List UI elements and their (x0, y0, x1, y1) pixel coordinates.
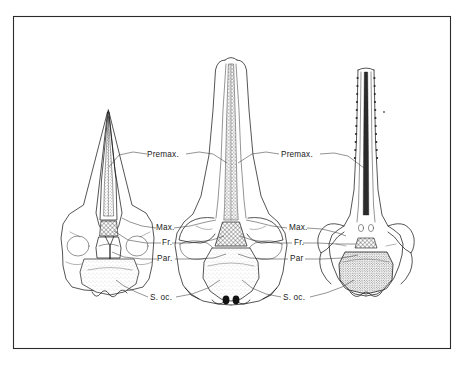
label-soc-left: S. oc. (150, 293, 172, 302)
label-max-left: Max. (156, 223, 175, 232)
right-frontal (355, 238, 377, 248)
label-fr-right: Fr. (294, 238, 304, 247)
left-frontal (100, 221, 119, 236)
figure-plate: Premax. Max. Fr. Par. S. oc. Premax. Max… (0, 0, 463, 367)
middle-condyle-right (233, 296, 240, 305)
label-fr-left: Fr. (162, 238, 172, 247)
label-max-right: Max. (289, 223, 308, 232)
middle-condyle-left (223, 296, 230, 305)
right-supraoccipital (339, 252, 393, 294)
right-premaxilla (363, 72, 369, 215)
label-par-right: Par (290, 254, 303, 263)
label-par-left: Par. (157, 254, 172, 263)
label-premax-left: Premax. (147, 150, 179, 159)
label-premax-right: Premax. (281, 150, 313, 159)
label-soc-right: S. oc. (283, 293, 305, 302)
skull-plate-svg: Premax. Max. Fr. Par. S. oc. Premax. Max… (0, 0, 463, 367)
right-stray-mark (383, 111, 385, 113)
